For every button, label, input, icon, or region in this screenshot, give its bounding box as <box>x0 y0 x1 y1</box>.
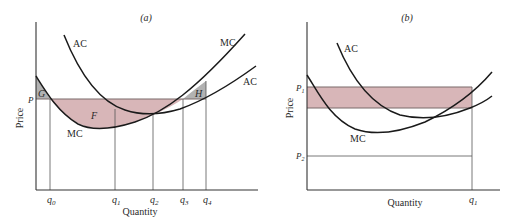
region-g-label: G <box>38 88 45 99</box>
ac-label-b: AC <box>344 43 358 54</box>
p2-label: P2 <box>295 151 305 162</box>
panel-a: (a) AC MC AC MC G F H P Price q0 q1 q2 q… <box>14 12 258 217</box>
q0-tick-label: q0 <box>47 194 56 207</box>
svg-text:P2: P2 <box>295 151 305 162</box>
panel-a-title: (a) <box>140 12 152 24</box>
mc-label-bottom: MC <box>67 128 83 139</box>
x-axis-label-a: Quantity <box>123 206 158 217</box>
svg-text:q3: q3 <box>180 194 189 207</box>
svg-text:q1: q1 <box>469 194 478 207</box>
price-p-label: P <box>27 95 34 105</box>
panel-b: (b) AC MC P1 P2 Price q1 Quantity <box>284 12 500 208</box>
cost-curves-diagram: (a) AC MC AC MC G F H P Price q0 q1 q2 q… <box>0 0 515 224</box>
ac-label-left: AC <box>73 38 87 49</box>
q4-tick-label: q4 <box>203 194 212 207</box>
region-f-label: F <box>90 110 98 121</box>
mc-label-right: MC <box>220 37 236 48</box>
region-h-label: H <box>194 88 203 99</box>
y-axis-label-a: Price <box>14 107 25 128</box>
ac-label-right: AC <box>243 76 257 87</box>
panel-b-title: (b) <box>401 12 413 24</box>
q1-tick-label: q1 <box>112 194 121 207</box>
q3-tick-label: q3 <box>180 194 189 207</box>
shaded-band-b <box>307 87 472 108</box>
svg-text:q0: q0 <box>47 194 56 207</box>
svg-text:P1: P1 <box>295 83 305 94</box>
y-axis-label-b: Price <box>284 97 295 118</box>
p1-label: P1 <box>295 83 305 94</box>
mc-label-b: MC <box>350 133 366 144</box>
svg-text:q4: q4 <box>203 194 212 207</box>
svg-text:q1: q1 <box>112 194 121 207</box>
q1-tick-label-b: q1 <box>469 194 478 207</box>
x-axis-label-b: Quantity <box>388 197 423 208</box>
